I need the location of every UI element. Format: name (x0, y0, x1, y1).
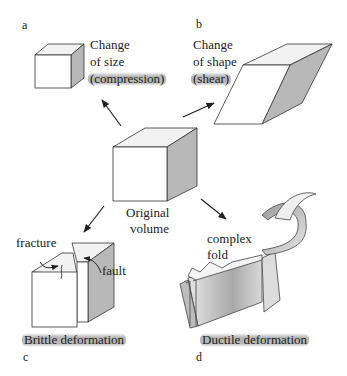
original-cube (113, 128, 197, 201)
annotation-fold: fold (207, 248, 228, 262)
caption-a-line2: of size (90, 55, 124, 69)
annotation-complex: complex (207, 232, 252, 246)
caption-b-line3: (shear) (191, 72, 231, 86)
caption-a-line1: Change (90, 38, 130, 52)
caption-center-line2: volume (130, 222, 169, 236)
panel-letter-a: a (22, 18, 27, 33)
complex-fold (180, 193, 316, 328)
panel-letter-c: c (23, 350, 28, 365)
caption-a-line3: (compression) (88, 72, 166, 86)
caption-d: Ductile deformation (200, 333, 309, 347)
faulted-block (32, 243, 114, 327)
annotation-fault: fault (102, 264, 126, 278)
diagram-drawing (0, 0, 347, 376)
panel-letter-b: b (196, 17, 202, 32)
caption-b-line1: Change (193, 38, 233, 52)
compressed-cube (35, 44, 84, 88)
panel-letter-d: d (196, 350, 202, 365)
caption-c: Brittle deformation (22, 333, 126, 347)
caption-b-line2: of shape (193, 55, 237, 69)
annotation-fracture: fracture (16, 236, 56, 250)
caption-center-line1: Original (126, 206, 169, 220)
